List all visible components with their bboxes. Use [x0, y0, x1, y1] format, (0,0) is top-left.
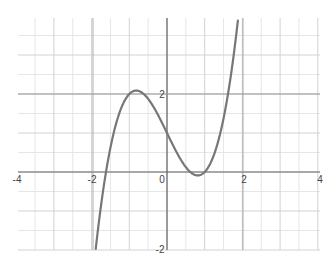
y-tick-label-2: 2 [159, 89, 165, 100]
major-grid [18, 18, 320, 250]
origin-label: 0 [159, 174, 165, 185]
x-tick-label-neg4: -4 [13, 174, 22, 185]
x-tick-label-4: 4 [317, 174, 323, 185]
function-plot: -4 -2 0 2 4 2 -2 [0, 0, 334, 258]
y-tick-label-neg2: -2 [156, 244, 165, 255]
x-tick-label-2: 2 [241, 174, 247, 185]
minor-grid [18, 18, 320, 250]
x-tick-label-neg2: -2 [88, 174, 97, 185]
